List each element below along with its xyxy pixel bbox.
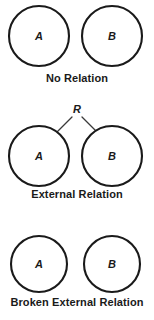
node-label-a: A	[34, 258, 43, 270]
caption-external-relation: External Relation	[0, 188, 154, 200]
panel-no-relation: A B No Relation	[0, 0, 154, 92]
node-label-b: B	[108, 150, 116, 162]
caption-broken-external-relation: Broken External Relation	[0, 296, 154, 308]
node-label-b: B	[108, 30, 116, 42]
node-label-b: B	[108, 258, 116, 270]
panel-external-relation: R A B External Relation	[0, 96, 154, 208]
relation-diagram-figure: A B No Relation R A B External Relation …	[0, 0, 154, 320]
caption-no-relation: No Relation	[0, 72, 154, 84]
node-label-a: A	[34, 30, 43, 42]
panel-broken-external-relation: A B Broken External Relation	[0, 234, 154, 320]
node-label-a: A	[34, 150, 43, 162]
relation-label-r: R	[73, 103, 81, 115]
